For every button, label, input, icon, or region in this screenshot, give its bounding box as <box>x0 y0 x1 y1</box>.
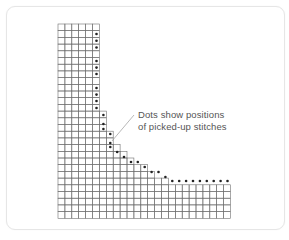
stitch-dot <box>130 161 133 164</box>
grid-cell <box>148 192 155 199</box>
grid-cell <box>113 192 120 199</box>
grid-cell <box>189 198 196 205</box>
grid-cell <box>155 212 162 219</box>
grid-cell <box>224 205 231 212</box>
grid-cell <box>65 44 72 51</box>
grid-cell <box>182 185 189 192</box>
grid-cell <box>141 198 148 205</box>
grid-cell <box>93 151 100 158</box>
grid-cell <box>72 98 79 105</box>
grid-cell <box>120 192 127 199</box>
grid-cell <box>99 165 106 172</box>
grid-cell <box>72 44 79 51</box>
grid-cell <box>79 64 86 71</box>
grid-cell <box>79 145 86 152</box>
stitch-dot <box>164 176 167 179</box>
grid-cell <box>113 178 120 185</box>
grid-cell <box>217 192 224 199</box>
grid-cell <box>99 212 106 219</box>
grid-cell <box>79 178 86 185</box>
grid-cell <box>148 178 155 185</box>
grid-cell <box>86 118 93 125</box>
grid-cell <box>72 158 79 165</box>
grid-cell <box>106 158 113 165</box>
grid-cell <box>93 125 100 132</box>
grid-cell <box>134 192 141 199</box>
stitch-dot <box>95 66 98 69</box>
grid-cell <box>93 198 100 205</box>
grid-cell <box>86 91 93 98</box>
grid-cell <box>58 145 65 152</box>
stitch-dot <box>95 93 98 96</box>
grid-cell <box>79 104 86 111</box>
grid-cell <box>65 145 72 152</box>
grid-cell <box>93 171 100 178</box>
grid-cell <box>99 158 106 165</box>
grid-cell <box>162 212 169 219</box>
grid-cell <box>65 205 72 212</box>
grid-cell <box>65 111 72 118</box>
grid-cell <box>196 212 203 219</box>
stitch-dot <box>171 180 174 183</box>
grid-cell <box>65 198 72 205</box>
stitch-dot <box>137 161 140 164</box>
grid-cell <box>58 71 65 78</box>
picked-up-stitch-dots <box>95 33 229 183</box>
grid-cell <box>203 205 210 212</box>
stitch-dot <box>95 100 98 103</box>
grid-cell <box>210 185 217 192</box>
grid-cell <box>79 165 86 172</box>
grid-cell <box>58 44 65 51</box>
grid-cell <box>99 205 106 212</box>
grid-cell <box>99 192 106 199</box>
grid-cell <box>127 171 134 178</box>
grid-cell <box>86 165 93 172</box>
grid-cell <box>141 192 148 199</box>
grid-cell <box>65 58 72 65</box>
grid-cell <box>72 58 79 65</box>
grid-cell <box>175 198 182 205</box>
grid-cell <box>79 37 86 44</box>
grid-cell <box>58 125 65 132</box>
stitch-dot <box>157 171 160 174</box>
grid-cell <box>86 145 93 152</box>
grid-cell <box>127 212 134 219</box>
grid-cell <box>65 131 72 138</box>
grid-cell <box>79 44 86 51</box>
grid-cell <box>58 185 65 192</box>
grid-cell <box>196 192 203 199</box>
grid-cell <box>93 185 100 192</box>
grid-cell <box>127 205 134 212</box>
grid-cell <box>134 171 141 178</box>
grid-cell <box>86 185 93 192</box>
grid-cell <box>189 212 196 219</box>
grid-cell <box>93 212 100 219</box>
grid-cell <box>65 24 72 31</box>
grid-cell <box>65 171 72 178</box>
grid-cell <box>79 205 86 212</box>
grid-cell <box>65 31 72 38</box>
grid-cell <box>86 125 93 132</box>
grid-cell <box>86 212 93 219</box>
grid-cell <box>79 171 86 178</box>
grid-cell <box>155 178 162 185</box>
grid-cell <box>79 91 86 98</box>
grid-cell <box>58 64 65 71</box>
grid-cell <box>106 185 113 192</box>
stitch-dot <box>109 133 112 136</box>
grid-cell <box>79 138 86 145</box>
grid-cell <box>58 84 65 91</box>
grid-cell <box>72 78 79 85</box>
grid-cell <box>155 185 162 192</box>
grid-cell <box>58 158 65 165</box>
grid-cell <box>86 198 93 205</box>
grid-cell <box>196 198 203 205</box>
grid-cell <box>224 185 231 192</box>
grid-cell <box>224 192 231 199</box>
grid-cell <box>72 104 79 111</box>
grid-cell <box>93 138 100 145</box>
grid-cell <box>113 158 120 165</box>
grid-cell <box>86 24 93 31</box>
grid-cell <box>93 165 100 172</box>
stitch-dot <box>206 180 209 183</box>
